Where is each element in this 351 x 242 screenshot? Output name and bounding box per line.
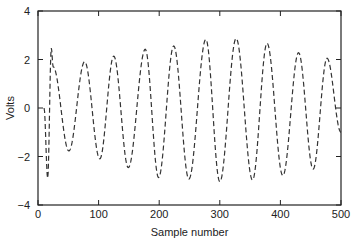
x-tick-label: 500 xyxy=(332,208,350,220)
y-axis-label: Volts xyxy=(4,96,16,120)
y-tick-label: 2 xyxy=(24,54,30,66)
x-tick-label: 300 xyxy=(211,208,229,220)
x-axis-label: Sample number xyxy=(151,226,229,238)
x-tick-label: 0 xyxy=(35,208,41,220)
y-tick-label: −2 xyxy=(17,151,30,163)
y-tick-label: −4 xyxy=(17,199,30,211)
y-tick-labels: −4−2024 xyxy=(17,5,30,211)
axis-ticks xyxy=(38,11,341,205)
signal-line xyxy=(44,38,341,181)
y-tick-label: 0 xyxy=(24,102,30,114)
x-tick-labels: 0100200300400500 xyxy=(35,208,350,220)
x-tick-label: 400 xyxy=(271,208,289,220)
x-tick-label: 200 xyxy=(150,208,168,220)
x-tick-label: 100 xyxy=(89,208,107,220)
axes-frame xyxy=(38,11,341,205)
y-tick-label: 4 xyxy=(24,5,30,17)
line-chart: 0100200300400500 −4−2024 Sample number V… xyxy=(0,0,351,242)
plot-area xyxy=(44,38,341,181)
